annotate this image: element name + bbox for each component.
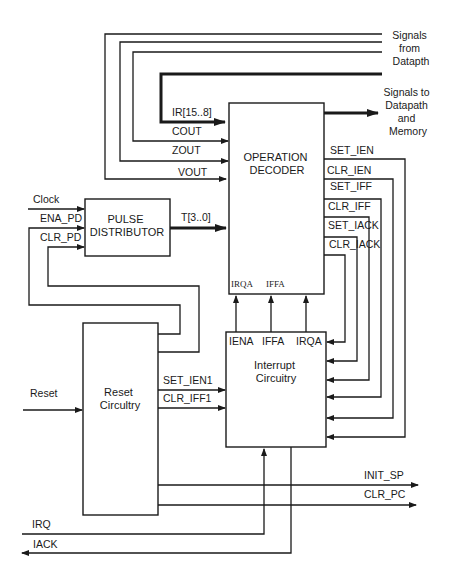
decoder-output-set-iack-label: SET_IACK bbox=[328, 219, 379, 231]
interrupt-port-iena: IENA bbox=[229, 335, 254, 347]
pulse-input-clr-pd: CLR_PD bbox=[40, 231, 82, 243]
decoder-input-zout-label: ZOUT bbox=[172, 144, 201, 156]
decoder-port-iffa: IFFA bbox=[266, 279, 285, 289]
control-unit-block-diagram: Signals from Datapth IR[15..8] COUT ZOUT… bbox=[0, 0, 457, 588]
reset-circuitry-block bbox=[83, 323, 158, 515]
irq-label: IRQ bbox=[32, 518, 51, 530]
interrupt-circuitry-block bbox=[226, 332, 326, 447]
decoder-output-clr-ien-label: CLR_IEN bbox=[327, 164, 371, 176]
interrupt-circuitry-title: Interrupt Circuitry bbox=[254, 359, 298, 384]
iack-label: IACK bbox=[33, 538, 58, 550]
decoder-output-clr-iff-label: CLR_IFF bbox=[328, 200, 371, 212]
operation-decoder-block bbox=[229, 103, 324, 294]
reset-circuitry-title: Reset Circultry bbox=[100, 386, 141, 411]
decoder-input-ir-label: IR[15..8] bbox=[172, 106, 212, 118]
decoder-input-cout-label: COUT bbox=[172, 125, 202, 137]
t-bus-label: T[3..0] bbox=[181, 211, 211, 223]
decoder-port-irqa: IRQA bbox=[231, 279, 253, 289]
clr-ien-wire bbox=[324, 179, 393, 418]
clock-label: Clock bbox=[33, 193, 60, 205]
decoder-output-clr-iack-label: CLR_IACK bbox=[329, 238, 380, 250]
clr-iack-wire bbox=[324, 255, 345, 342]
pulse-input-ena-pd: ENA_PD bbox=[40, 212, 82, 224]
interrupt-port-iffa: IFFA bbox=[262, 335, 284, 347]
signals-from-datapath-label: Signals from Datapth bbox=[392, 29, 429, 67]
reset-output-set-ien1-label: SET_IEN1 bbox=[163, 374, 213, 386]
init-sp-label: INIT_SP bbox=[364, 469, 404, 481]
decoder-output-set-ien-label: SET_IEN bbox=[330, 144, 374, 156]
operation-decoder-title: OPERATION DECODER bbox=[243, 151, 310, 176]
interrupt-port-irqa: IRQA bbox=[296, 335, 322, 347]
signals-to-datapath-label: Signals to Datapath and Memory bbox=[383, 86, 432, 137]
reset-label: Reset bbox=[30, 387, 58, 399]
clr-pc-label: CLR_PC bbox=[364, 488, 406, 500]
decoder-input-vout-label: VOUT bbox=[178, 166, 208, 178]
reset-output-clr-iff1-label: CLR_IFF1 bbox=[163, 392, 212, 404]
decoder-output-set-iff-label: SET_IFF bbox=[330, 180, 372, 192]
